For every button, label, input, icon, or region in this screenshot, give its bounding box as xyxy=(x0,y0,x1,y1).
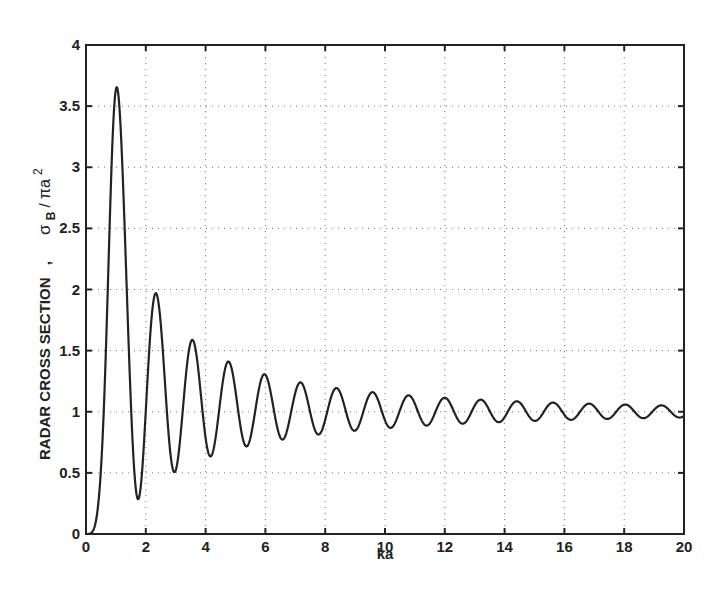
y-tick-label: 2.5 xyxy=(59,219,80,236)
x-tick-label: 18 xyxy=(616,538,633,555)
y-tick-label: 1 xyxy=(72,403,80,420)
x-tick-label: 16 xyxy=(556,538,573,555)
y-axis-label: RADAR CROSS SECTION , σ B / πa 2 xyxy=(31,168,58,460)
grid-lines xyxy=(86,45,684,534)
rcs-chart: 02468101214161820 00.511.522.533.54 ka R… xyxy=(0,0,725,608)
x-axis-label: ka xyxy=(377,545,394,562)
axis-ticks xyxy=(86,45,684,534)
y-tick-label: 3.5 xyxy=(59,97,80,114)
rcs-curve xyxy=(86,87,684,534)
y-tick-label: 0.5 xyxy=(59,464,80,481)
x-tick-label: 6 xyxy=(261,538,269,555)
y-tick-label: 1.5 xyxy=(59,342,80,359)
plot-frame xyxy=(86,45,684,534)
x-tick-label: 14 xyxy=(496,538,513,555)
y-tick-label: 2 xyxy=(72,281,80,298)
y-axis-label-main: RADAR CROSS SECTION , σ B / πa 2 xyxy=(31,168,58,460)
rcs-curve-line xyxy=(86,87,684,534)
x-tick-label: 4 xyxy=(201,538,210,555)
y-tick-label: 0 xyxy=(72,525,80,542)
x-tick-label: 0 xyxy=(82,538,90,555)
y-tick-labels: 00.511.522.533.54 xyxy=(59,36,81,542)
x-tick-label: 20 xyxy=(676,538,693,555)
x-tick-label: 12 xyxy=(436,538,453,555)
x-tick-label: 8 xyxy=(321,538,329,555)
y-tick-label: 3 xyxy=(72,158,80,175)
y-tick-label: 4 xyxy=(72,36,81,53)
x-tick-label: 2 xyxy=(142,538,150,555)
